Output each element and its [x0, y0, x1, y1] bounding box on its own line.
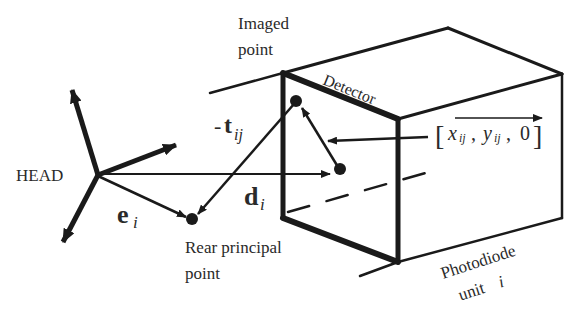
vector-d-label: d i — [244, 182, 265, 214]
vector-e-subscript: i — [133, 213, 138, 232]
head-label: HEAD — [16, 166, 63, 185]
rear-principal-point-dot — [186, 213, 198, 225]
imaged-point-arrow — [302, 108, 338, 167]
coordinate-label: [ x ij , y ij , 0 ] — [435, 118, 542, 151]
coordinate-pointer-arrow — [328, 137, 428, 141]
coordinate-sep-1: , — [471, 122, 476, 144]
imaged-point-label-1: Imaged — [238, 14, 289, 33]
diagram-canvas: Imaged point Detector HEAD Rear principa… — [0, 0, 569, 317]
coordinate-x-subscript: ij — [459, 131, 466, 145]
imaged-point-dot — [290, 95, 302, 107]
coordinate-x: x — [447, 122, 457, 144]
vector-t-prefix: - — [214, 113, 221, 138]
vector-e-arrow — [98, 176, 186, 217]
coordinate-open-bracket: [ — [435, 120, 444, 151]
detector-point-dot — [334, 163, 346, 175]
imaged-point-label-2: point — [238, 40, 273, 59]
vector-d-subscript: i — [260, 195, 265, 214]
vector-d-symbol: d — [244, 182, 259, 211]
extension-line-top — [210, 73, 283, 93]
vector-t-subscript: ij — [234, 126, 243, 144]
vector-t-symbol: t — [224, 112, 232, 138]
vector-t-label: - t ij — [214, 112, 243, 144]
vector-e-symbol: e — [117, 200, 129, 229]
hidden-edge — [288, 170, 436, 212]
coordinate-z: 0 — [520, 122, 530, 144]
coordinate-y-subscript: ij — [494, 131, 501, 145]
vector-e-label: e i — [117, 200, 138, 232]
rear-principal-label-1: Rear principal — [185, 238, 282, 257]
coordinate-y: y — [481, 122, 492, 145]
coordinate-sep-2: , — [506, 122, 511, 144]
extension-line-bottom — [360, 262, 398, 276]
photodiode-label-2: unit — [456, 278, 487, 304]
rear-principal-label-2: point — [185, 264, 220, 283]
photodiode-label: Photodiode unit i — [438, 241, 526, 308]
photodiode-index: i — [496, 272, 507, 292]
coordinate-close-bracket: ] — [533, 120, 542, 151]
